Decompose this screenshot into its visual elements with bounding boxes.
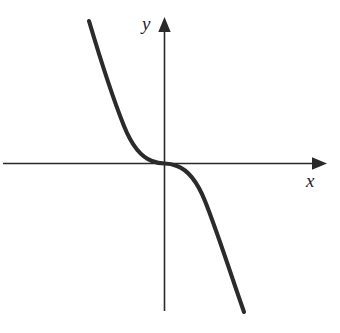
x-axis-arrowhead — [312, 157, 327, 169]
figure-container: y x — [0, 0, 340, 333]
cubic-curve — [89, 21, 244, 312]
cubic-function-plot — [0, 0, 340, 333]
x-axis-label: x — [306, 171, 314, 190]
y-axis-arrowhead — [158, 17, 170, 32]
y-axis-label: y — [142, 14, 150, 33]
